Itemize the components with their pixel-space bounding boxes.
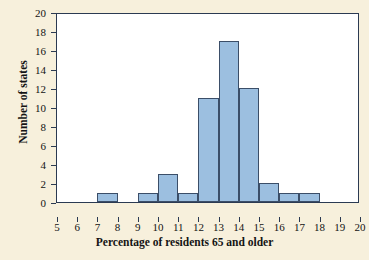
x-tick-label: 15 (249, 222, 269, 233)
histogram-figure: Number of states 02468101214161820 56789… (0, 0, 369, 260)
y-tick-label: 6 (4, 140, 46, 152)
x-tick-label: 6 (67, 222, 87, 233)
x-tick-label: 20 (350, 222, 369, 233)
y-tick-mark (51, 203, 56, 204)
x-tick-label: 11 (168, 222, 188, 233)
x-axis-ticks: 567891011121314151617181920 (57, 14, 358, 202)
y-tick-label: 8 (4, 121, 46, 133)
x-tick-label: 5 (47, 222, 67, 233)
y-tick-label: 2 (4, 178, 46, 190)
x-tick-label: 16 (269, 222, 289, 233)
plot-area: 567891011121314151617181920 (56, 13, 359, 203)
x-axis-title: Percentage of residents 65 and older (0, 236, 369, 248)
x-tick-label: 13 (209, 222, 229, 233)
x-tick-label: 10 (148, 222, 168, 233)
x-tick-label: 17 (289, 222, 309, 233)
x-tick-label: 12 (188, 222, 208, 233)
y-tick-label: 16 (4, 45, 46, 57)
y-tick-label: 0 (4, 197, 46, 209)
x-tick-label: 14 (229, 222, 249, 233)
x-tick-label: 18 (310, 222, 330, 233)
y-tick-label: 4 (4, 159, 46, 171)
x-tick-label: 8 (108, 222, 128, 233)
y-tick-label: 20 (4, 7, 46, 19)
x-tick-label: 19 (330, 222, 350, 233)
y-tick-label: 10 (4, 102, 46, 114)
y-tick-label: 12 (4, 83, 46, 95)
x-tick-label: 9 (128, 222, 148, 233)
y-tick-label: 18 (4, 26, 46, 38)
y-tick-label: 14 (4, 64, 46, 76)
x-tick-label: 7 (87, 222, 107, 233)
